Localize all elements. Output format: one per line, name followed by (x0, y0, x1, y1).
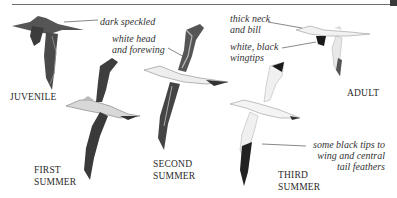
annotation-black-tips-line1: some black tips to (300, 139, 385, 150)
pointer-line (268, 22, 302, 28)
annotation-thick-neck-line2: and bill (230, 24, 261, 35)
juvenile-bird (12, 16, 84, 90)
annotation-dark-speckled: dark speckled (100, 16, 155, 27)
stage-label-first-summer-line2: SUMMER (34, 177, 76, 188)
annotation-black-tips-line3: tail feathers (300, 161, 385, 172)
first-summer-bird (66, 58, 140, 180)
stage-label-juvenile: JUVENILE (10, 92, 56, 103)
second-summer-bird (144, 24, 228, 150)
stage-label-second-summer-line1: SECOND (153, 159, 192, 170)
stage-label-first-summer-line1: FIRST (34, 165, 61, 176)
stage-label-second-summer-line2: SUMMER (153, 171, 195, 182)
annotation-white-black-line2: wingtips (230, 52, 264, 63)
adult-bird (296, 26, 370, 76)
annotation-black-tips-line2: wing and central (300, 150, 385, 161)
third-summer-bird (230, 62, 300, 186)
annotation-thick-neck-line1: thick neck (230, 13, 270, 24)
stage-label-third-summer-line2: SUMMER (278, 182, 320, 193)
annotation-white-black-line1: white, black (230, 41, 278, 52)
pointer-line (282, 42, 316, 48)
annotation-white-head-line2: and forewing (112, 44, 165, 55)
annotation-white-head-line1: white head (112, 33, 156, 44)
pointer-line (64, 20, 98, 22)
stage-label-adult: ADULT (347, 88, 379, 99)
